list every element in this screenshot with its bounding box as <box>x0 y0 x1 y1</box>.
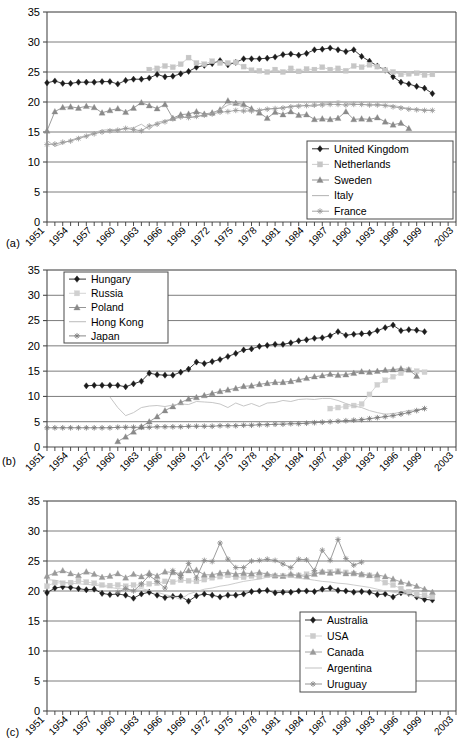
svg-text:2003: 2003 <box>432 449 456 473</box>
svg-text:1975: 1975 <box>212 713 236 737</box>
svg-text:1966: 1966 <box>141 224 165 248</box>
svg-text:1978: 1978 <box>235 713 259 737</box>
svg-text:1996: 1996 <box>377 713 401 737</box>
svg-text:1993: 1993 <box>353 224 377 248</box>
svg-text:Argentina: Argentina <box>327 662 372 674</box>
svg-text:1951: 1951 <box>23 224 47 248</box>
svg-text:1957: 1957 <box>70 713 94 737</box>
svg-text:35: 35 <box>28 495 40 507</box>
svg-text:1996: 1996 <box>377 449 401 473</box>
svg-text:1981: 1981 <box>259 713 283 737</box>
svg-text:1981: 1981 <box>259 449 283 473</box>
chart-panel-c: (c) 051015202530351951195419571960196319… <box>0 489 468 749</box>
svg-text:1978: 1978 <box>235 224 259 248</box>
svg-text:25: 25 <box>28 314 40 326</box>
svg-text:1975: 1975 <box>212 449 236 473</box>
svg-text:1972: 1972 <box>188 713 212 737</box>
svg-text:Russia: Russia <box>91 287 123 299</box>
svg-text:1963: 1963 <box>117 713 141 737</box>
svg-text:1999: 1999 <box>400 224 424 248</box>
svg-text:1963: 1963 <box>117 224 141 248</box>
svg-text:Uruguay: Uruguay <box>327 678 367 690</box>
chart-c-svg: 0510152025303519511954195719601963196619… <box>0 489 468 749</box>
svg-text:1966: 1966 <box>141 713 165 737</box>
svg-text:15: 15 <box>28 615 40 627</box>
svg-text:1987: 1987 <box>306 449 330 473</box>
svg-text:1969: 1969 <box>164 713 188 737</box>
svg-text:25: 25 <box>28 555 40 567</box>
svg-text:5: 5 <box>34 416 40 428</box>
svg-text:1972: 1972 <box>188 224 212 248</box>
svg-text:1951: 1951 <box>23 713 47 737</box>
svg-text:10: 10 <box>28 645 40 657</box>
svg-text:1972: 1972 <box>188 449 212 473</box>
svg-text:35: 35 <box>28 6 40 18</box>
svg-text:1966: 1966 <box>141 449 165 473</box>
svg-text:25: 25 <box>28 66 40 78</box>
svg-text:1993: 1993 <box>353 713 377 737</box>
svg-text:1960: 1960 <box>94 224 118 248</box>
svg-text:20: 20 <box>28 340 40 352</box>
svg-text:5: 5 <box>34 675 40 687</box>
svg-text:USA: USA <box>327 630 349 642</box>
svg-text:1996: 1996 <box>377 224 401 248</box>
svg-text:1957: 1957 <box>70 449 94 473</box>
svg-text:10: 10 <box>28 156 40 168</box>
svg-text:30: 30 <box>28 36 40 48</box>
svg-text:Sweden: Sweden <box>334 174 372 186</box>
chart-b-svg: 0510152025303519511954195719601963196619… <box>0 262 468 487</box>
svg-text:Poland: Poland <box>91 301 124 313</box>
svg-text:1954: 1954 <box>46 713 70 737</box>
svg-text:1975: 1975 <box>212 224 236 248</box>
svg-text:1984: 1984 <box>282 713 306 737</box>
svg-text:1999: 1999 <box>400 449 424 473</box>
svg-text:1993: 1993 <box>353 449 377 473</box>
svg-text:20: 20 <box>28 585 40 597</box>
svg-text:1957: 1957 <box>70 224 94 248</box>
svg-text:Hong Kong: Hong Kong <box>91 316 144 328</box>
svg-text:Japan: Japan <box>91 330 120 342</box>
svg-text:1969: 1969 <box>164 224 188 248</box>
svg-text:1960: 1960 <box>94 449 118 473</box>
svg-text:1981: 1981 <box>259 224 283 248</box>
svg-text:20: 20 <box>28 96 40 108</box>
svg-text:15: 15 <box>28 365 40 377</box>
svg-text:Italy: Italy <box>334 189 354 201</box>
svg-text:2003: 2003 <box>432 713 456 737</box>
chart-a-svg: 0510152025303519511954195719601963196619… <box>0 0 468 260</box>
svg-text:1969: 1969 <box>164 449 188 473</box>
svg-text:15: 15 <box>28 126 40 138</box>
svg-text:10: 10 <box>28 390 40 402</box>
svg-text:1990: 1990 <box>330 449 354 473</box>
svg-text:1954: 1954 <box>46 449 70 473</box>
svg-text:1990: 1990 <box>330 224 354 248</box>
svg-text:Hungary: Hungary <box>91 273 131 285</box>
svg-text:United Kingdom: United Kingdom <box>334 143 409 155</box>
svg-text:1954: 1954 <box>46 224 70 248</box>
svg-text:Canada: Canada <box>327 646 364 658</box>
svg-text:Netherlands: Netherlands <box>334 158 391 170</box>
svg-text:1978: 1978 <box>235 449 259 473</box>
svg-text:1987: 1987 <box>306 713 330 737</box>
svg-text:1990: 1990 <box>330 713 354 737</box>
svg-text:30: 30 <box>28 289 40 301</box>
svg-text:5: 5 <box>34 186 40 198</box>
svg-text:Australia: Australia <box>327 614 368 626</box>
svg-text:1951: 1951 <box>23 449 47 473</box>
multi-panel-line-chart-figure: (a) 051015202530351951195419571960196319… <box>0 0 468 749</box>
chart-panel-a: (a) 051015202530351951195419571960196319… <box>0 0 468 260</box>
svg-text:1987: 1987 <box>306 224 330 248</box>
svg-text:1999: 1999 <box>400 713 424 737</box>
svg-text:30: 30 <box>28 525 40 537</box>
svg-text:1984: 1984 <box>282 449 306 473</box>
svg-text:1960: 1960 <box>94 713 118 737</box>
svg-text:1963: 1963 <box>117 449 141 473</box>
chart-panel-b: (b) 051015202530351951195419571960196319… <box>0 262 468 487</box>
svg-text:2003: 2003 <box>432 224 456 248</box>
svg-text:35: 35 <box>28 264 40 276</box>
svg-text:France: France <box>334 205 367 217</box>
svg-text:1984: 1984 <box>282 224 306 248</box>
